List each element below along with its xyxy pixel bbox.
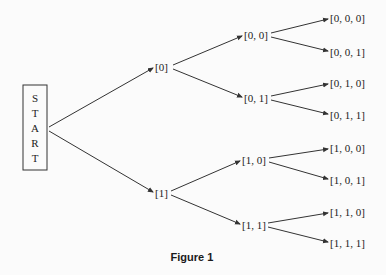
edge-arrow — [271, 100, 328, 114]
node-0: [0] — [155, 61, 168, 73]
leaf-0-0-1: [0, 0, 1] — [330, 46, 365, 58]
node-1: [1] — [155, 187, 168, 199]
leaf-0-1-0: [0, 1, 0] — [330, 77, 365, 89]
edge-arrow — [269, 149, 328, 158]
leaf-1-1-1: [1, 1, 1] — [330, 237, 365, 249]
edge-arrow — [271, 84, 328, 96]
edge-arrow — [49, 68, 153, 127]
start-node: S T A R T — [23, 85, 47, 170]
edge-arrow — [173, 69, 242, 97]
start-letter: S — [32, 92, 38, 104]
edge-arrow — [268, 213, 328, 223]
node-1-0: [1, 0] — [242, 154, 266, 166]
start-letter: T — [32, 152, 39, 164]
node-0-0: [0, 0] — [244, 29, 268, 41]
leaf-1-0-0: [1, 0, 0] — [330, 142, 365, 154]
leaf-0-0-0: [0, 0, 0] — [330, 12, 365, 24]
binary-tree-diagram: S T A R T [0] [1] [0, 0] [0, 1] [1, 0] [… — [0, 0, 386, 275]
edge-arrow — [269, 162, 328, 179]
edge-arrow — [171, 195, 240, 224]
edge-arrow — [268, 227, 328, 242]
edge-arrow — [271, 37, 328, 51]
leaf-0-1-1: [0, 1, 1] — [330, 109, 365, 121]
edge-arrow — [271, 19, 328, 33]
node-0-1: [0, 1] — [244, 92, 268, 104]
edge-arrow — [171, 161, 240, 191]
edge-arrow — [49, 131, 153, 192]
leaf-1-1-0: [1, 1, 0] — [330, 206, 365, 218]
leaf-1-0-1: [1, 0, 1] — [330, 174, 365, 186]
edge-arrow — [173, 36, 242, 65]
figure-caption: Figure 1 — [171, 251, 214, 263]
start-letter: A — [31, 122, 39, 134]
node-1-1: [1, 1] — [242, 219, 266, 231]
start-letter: T — [32, 107, 39, 119]
start-letter: R — [31, 137, 39, 149]
